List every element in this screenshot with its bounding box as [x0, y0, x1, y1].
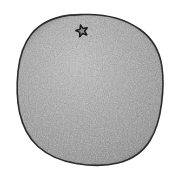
specimen-image — [0, 0, 181, 180]
figure-canvas — [0, 0, 181, 180]
